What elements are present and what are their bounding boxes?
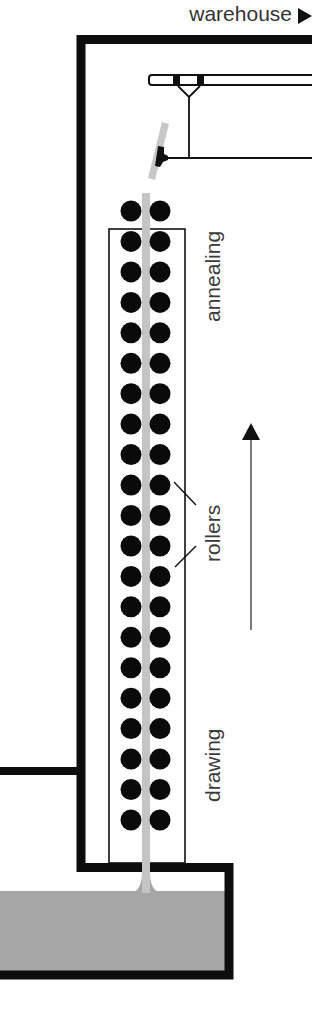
roller [121,779,142,800]
roller [121,231,142,252]
roller [121,536,142,557]
roller [121,414,142,435]
roller [121,201,142,222]
roller [121,657,142,678]
roller [150,383,171,404]
roller [150,475,171,496]
roller [121,596,142,617]
arrow-up-icon [242,423,260,630]
roller [150,353,171,374]
roller [121,353,142,374]
roller [121,444,142,465]
roller [150,231,171,252]
roller [150,414,171,435]
roller [150,322,171,343]
roller [121,505,142,526]
roller [121,475,142,496]
roller [121,688,142,709]
label-rollers: rollers [201,505,224,562]
roller [150,596,171,617]
roller [150,566,171,587]
label-drawing: drawing [201,728,224,802]
roller [150,536,171,557]
roller [150,292,171,313]
roller [150,749,171,770]
roller [121,383,142,404]
roller [121,627,142,648]
roller [150,505,171,526]
molten-glass-tank [0,891,226,971]
roller [121,261,142,282]
label-annealing: annealing [201,231,224,322]
roller [150,627,171,648]
roller [121,292,142,313]
roller [150,201,171,222]
roller [150,688,171,709]
roller [121,810,142,831]
overhead-crane [149,74,312,158]
glass-ribbon [142,193,150,893]
roller [150,261,171,282]
roller [121,566,142,587]
glass-drawing-diagram: annealing rollers drawing [0,0,336,1036]
roller [121,718,142,739]
roller [150,444,171,465]
roller [150,810,171,831]
roller [150,718,171,739]
roller [150,657,171,678]
roller [121,749,142,770]
roller [150,779,171,800]
roller [121,322,142,343]
